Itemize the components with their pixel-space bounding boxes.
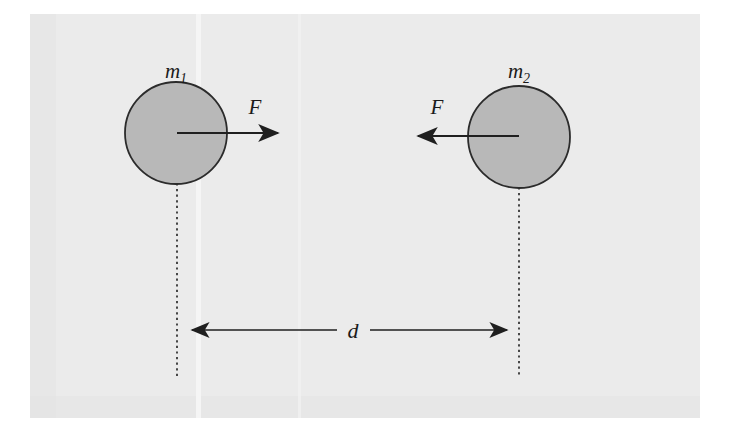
mass-two-label-subscript: 2 [523,71,530,86]
separation-distance-label: d [348,318,360,343]
force-on-mass-one-label: F [248,95,262,119]
scan-shade-left [30,14,56,418]
scanned-paper-background [30,14,700,418]
mass-two-body [468,86,570,188]
mass-one-label-subscript: 1 [180,71,187,86]
force-on-mass-two-label: F [430,95,444,119]
mass-two-label-symbol: m [508,59,523,83]
diagram-canvas: m1 m2 F F d [0,0,730,436]
scan-streak-two [298,14,301,418]
physics-diagram-figure: m1 m2 F F d [0,0,730,436]
mass-one-label-symbol: m [165,59,180,83]
scan-streak-one [196,14,201,418]
scan-shade-bottom [30,396,700,418]
